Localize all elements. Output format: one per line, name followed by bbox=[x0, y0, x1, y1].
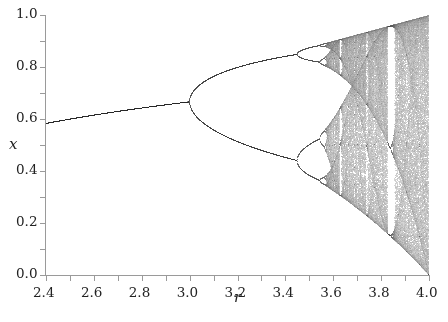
x-tick-label: 3.6 bbox=[320, 286, 341, 300]
y-tick-label: 1.0 bbox=[16, 7, 37, 21]
x-tick-label: 4.0 bbox=[416, 286, 437, 300]
x-axis-title: r bbox=[234, 290, 241, 305]
x-tick-label: 2.8 bbox=[129, 286, 150, 300]
y-tick-label: 0.4 bbox=[16, 163, 37, 177]
x-tick-label: 2.6 bbox=[81, 286, 102, 300]
y-tick-label: 0.0 bbox=[16, 267, 37, 281]
y-tick-label: 0.2 bbox=[16, 215, 37, 229]
y-tick-label: 0.8 bbox=[16, 59, 37, 73]
bifurcation-chart: 2.42.62.83.03.23.43.63.84.00.00.20.40.60… bbox=[0, 0, 448, 322]
x-tick-label: 2.4 bbox=[33, 286, 54, 300]
x-tick-label: 3.4 bbox=[272, 286, 293, 300]
x-tick-label: 3.0 bbox=[177, 286, 198, 300]
x-tick-label: 3.8 bbox=[368, 286, 389, 300]
y-tick-label: 0.6 bbox=[16, 111, 37, 125]
axes bbox=[0, 0, 448, 322]
y-axis-title: x bbox=[9, 137, 17, 152]
